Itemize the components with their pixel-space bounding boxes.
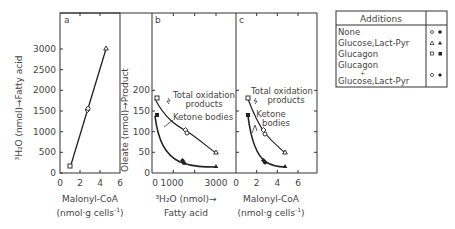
panel-a-point-glucose [104,46,109,50]
panel-b-xlabel-2: Fatty acid [164,208,208,218]
panel-b-ketone-glucose [214,164,219,168]
svg-text:2: 2 [77,178,83,188]
panel-b-ketone-curve [155,116,216,167]
svg-text:2500: 2500 [33,65,56,75]
svg-text:50: 50 [139,147,151,157]
panel-a-xlabel: Malonyl-CoA [62,194,119,204]
panel-c-ketone-glucose [283,164,288,168]
legend-label-glucagon: Glucagon [338,49,378,59]
svg-text:0: 0 [152,178,158,188]
panel-b-total-glucose [214,150,219,154]
panel-b-xlabel: ³H₂O (nmol)→ [156,194,217,204]
panel-c-ketone-pointer [252,125,257,133]
svg-text:1500: 1500 [33,106,56,116]
svg-text:1000: 1000 [33,127,56,137]
legend-title: Additions [360,14,402,24]
svg-text:500: 500 [39,147,56,157]
panel-a-point-glucagon [68,164,72,168]
panel-b-annot-total-2: products [185,99,223,109]
panel-c-xticks: 0 2 4 6 [233,178,301,188]
legend-label-plus: + [360,69,365,76]
panel-a-frame [60,13,120,173]
svg-text:200: 200 [133,85,150,95]
svg-text:0: 0 [233,178,239,188]
panel-c-total-pointer [254,98,257,104]
svg-text:0: 0 [144,168,150,178]
svg-text:0: 0 [50,168,56,178]
panel-c-annot-total-2: products [267,95,305,105]
panel-a-ticks [60,13,100,173]
panel-b-total-none [185,131,189,135]
svg-text:0: 0 [57,178,63,188]
panel-b-total-pointer [167,98,170,104]
panel-b-xticks: 0 1000 3000 [152,178,228,188]
figure: a 0 500 1000 1500 2000 2500 3000 0 2 4 6… [0,0,455,229]
panel-c-total-glucagon [246,96,250,100]
legend-label-glucagon-2: Glucagon [338,60,378,70]
legend-open-square-icon [431,52,434,55]
panel-c-annot-ketone-2: bodies [262,118,291,128]
panel-b-ketone-none [182,161,186,165]
panel-b-yticks: 0 50 100 150 200 [133,85,150,178]
panel-a-xlabel-units: (nmol·g cells-1) [56,206,123,218]
panel-a-xticks: 0 2 4 6 [57,178,123,188]
svg-text:6: 6 [295,178,301,188]
panel-b-label: b [155,15,161,25]
legend: Additions None Glucose,Lact-Pyr Glucagon… [336,11,447,87]
panel-b-total-glucagon [155,96,159,100]
panel-a-point-none [86,107,90,111]
panel-c-xlabel: Malonyl-CoA [243,194,300,204]
panel-b-ketone-glucagon [155,113,159,117]
panel-c-ketone-none [263,161,267,165]
panel-c-ketone-glucagon [246,113,250,117]
legend-filled-circle-icon [438,30,442,34]
svg-text:100: 100 [133,127,150,137]
panel-a-label: a [64,15,70,25]
panel-b-annot-ketone: Ketone bodies [173,112,234,122]
svg-text:6: 6 [117,178,123,188]
legend-open-circle-icon [431,31,434,34]
panel-a-ylabel: ³H₂O (nmol)→Fatty acid [14,56,24,161]
legend-filled-square-icon [439,52,443,56]
legend-label-glucose: Glucose,Lact-Pyr [338,38,410,48]
panel-b-ylabel: Oleate (nmol)→Product [120,68,130,172]
panel-c-label: c [239,15,244,25]
svg-text:4: 4 [274,178,280,188]
panel-c-total-glucose [283,150,288,154]
panel-c-xlabel-units: (nmol·g cells-1) [237,206,304,218]
svg-text:2: 2 [254,178,260,188]
panel-a-yticks: 0 500 1000 1500 2000 2500 3000 [33,44,56,178]
svg-text:3000: 3000 [205,178,228,188]
panel-b-ketone-pointer [164,120,173,127]
svg-text:150: 150 [133,106,150,116]
panel-c-total-none [263,132,267,136]
legend-label-glucagon-glucose: Glucose,Lact-Pyr [338,76,410,86]
svg-text:2000: 2000 [33,85,56,95]
svg-text:4: 4 [97,178,103,188]
svg-text:1000: 1000 [161,178,184,188]
svg-text:3000: 3000 [33,44,56,54]
legend-label-none: None [338,27,360,37]
